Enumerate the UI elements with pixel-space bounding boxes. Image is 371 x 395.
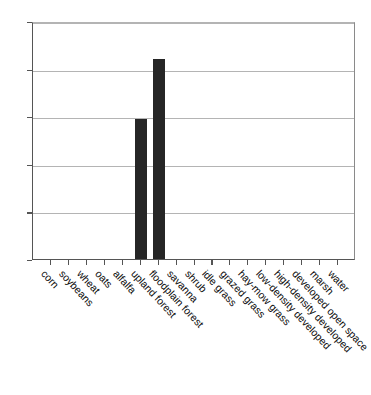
x-tick-mark xyxy=(158,260,159,265)
y-tick-mark xyxy=(27,22,32,23)
y-tick-mark xyxy=(27,212,32,213)
gridline xyxy=(33,71,354,72)
x-tick-mark xyxy=(247,260,248,265)
x-tick-mark xyxy=(194,260,195,265)
y-tick-mark xyxy=(27,117,32,118)
x-tick-mark xyxy=(337,260,338,265)
gridline xyxy=(33,118,354,119)
bar xyxy=(153,59,165,259)
x-tick-mark xyxy=(122,260,123,265)
x-tick-mark xyxy=(319,260,320,265)
y-tick-mark xyxy=(27,165,32,166)
x-tick-mark xyxy=(283,260,284,265)
x-tick-mark xyxy=(104,260,105,265)
x-tick-mark xyxy=(229,260,230,265)
bar xyxy=(135,119,147,259)
plot-area xyxy=(32,22,355,260)
x-tick-mark xyxy=(265,260,266,265)
y-tick-mark xyxy=(27,70,32,71)
gridline xyxy=(33,166,354,167)
x-tick-mark xyxy=(50,260,51,265)
gridline xyxy=(33,213,354,214)
x-tick-label: corn xyxy=(39,268,61,290)
x-tick-mark xyxy=(301,260,302,265)
y-tick-mark xyxy=(27,260,32,261)
x-tick-mark xyxy=(68,260,69,265)
x-tick-mark xyxy=(211,260,212,265)
gridline xyxy=(33,23,354,24)
x-tick-mark xyxy=(86,260,87,265)
x-tick-mark xyxy=(176,260,177,265)
x-tick-mark xyxy=(140,260,141,265)
